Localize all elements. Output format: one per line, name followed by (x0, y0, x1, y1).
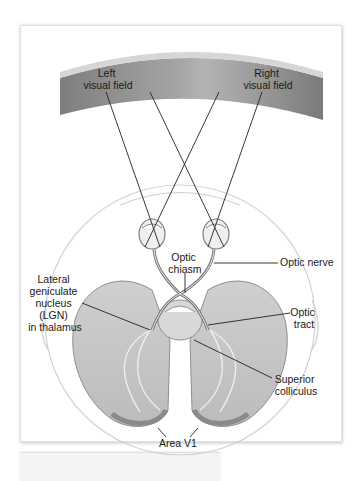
label-optic-tract: Optic tract (290, 306, 317, 330)
label-optic-chiasm: Optic chiasm (168, 251, 202, 275)
sight-lines (106, 92, 262, 247)
label-superior-colliculus: Superior colliculus (275, 373, 318, 397)
leader-v1-right (190, 428, 198, 437)
leader-v1-left (158, 428, 166, 437)
label-area-v1: Area V1 (159, 437, 197, 449)
brain (73, 281, 288, 426)
label-optic-nerve: Optic nerve (280, 256, 334, 268)
label-lgn: Lateral geniculate nucleus (LGN) in thal… (28, 273, 82, 333)
